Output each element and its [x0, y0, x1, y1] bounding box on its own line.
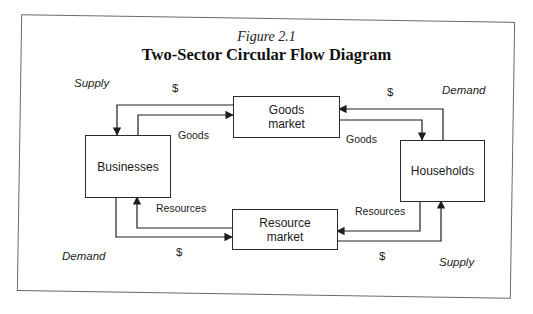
businesses-label: Businesses: [97, 160, 158, 174]
bottom-right-dollar-label: $: [379, 250, 385, 262]
businesses-node: Businesses: [85, 135, 171, 198]
bottom-right-resources-label: Resources: [355, 205, 405, 217]
top-right-dollar-label: $: [387, 86, 393, 98]
bottom-left-resources-label: Resources: [156, 202, 206, 214]
arrow-dollar-goods-market-to-businesses: [117, 105, 233, 135]
top-right-goods-label: Goods: [346, 133, 377, 145]
supply-label-bottom-right: Supply: [439, 256, 474, 268]
households-node: Households: [400, 140, 485, 202]
supply-label-top-left: Supply: [74, 77, 109, 89]
goods-market-label-line2: market: [268, 117, 305, 131]
bottom-left-dollar-label: $: [176, 246, 182, 258]
goods-market-node: Goods market: [233, 96, 340, 138]
households-label: Households: [411, 164, 474, 178]
resource-market-node: Resource market: [232, 209, 338, 250]
resource-market-label-line1: Resource: [259, 216, 310, 230]
demand-label-bottom-left: Demand: [62, 250, 105, 262]
goods-market-label-line1: Goods: [269, 103, 304, 117]
top-left-goods-label: Goods: [178, 129, 209, 141]
resource-market-label-line2: market: [267, 230, 304, 244]
demand-label-top-right: Demand: [442, 84, 485, 96]
top-left-dollar-label: $: [172, 82, 178, 94]
